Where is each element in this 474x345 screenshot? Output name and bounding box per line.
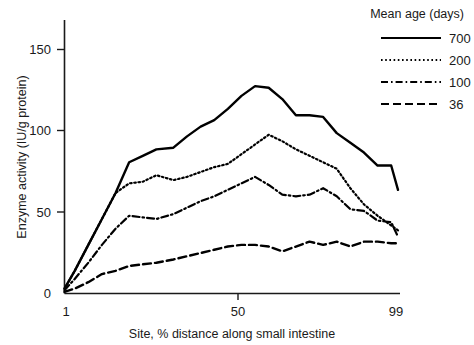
chart-figure: 150 100 50 0 1 50 99 Enzyme activity (IU… bbox=[0, 0, 474, 345]
x-tick-label-50: 50 bbox=[231, 304, 245, 319]
y-tick-label-150: 150 bbox=[29, 42, 51, 57]
legend-title: Mean age (days) bbox=[370, 7, 464, 21]
series-line-36 bbox=[65, 242, 399, 292]
y-tick-label-100: 100 bbox=[29, 123, 51, 138]
y-tick-label-50: 50 bbox=[37, 205, 51, 220]
series-line-200 bbox=[65, 135, 399, 289]
legend-item-36[interactable]: 36 bbox=[381, 97, 463, 112]
x-tick-label-99: 99 bbox=[389, 304, 403, 319]
legend-label-200: 200 bbox=[449, 53, 471, 68]
y-axis-title: Enzyme activity (IU/g protein) bbox=[15, 75, 29, 238]
y-tick-label-0: 0 bbox=[44, 286, 51, 301]
legend-label-36: 36 bbox=[449, 97, 463, 112]
axes-group bbox=[65, 20, 401, 294]
legend-item-700[interactable]: 700 bbox=[381, 31, 471, 46]
legend-item-200[interactable]: 200 bbox=[381, 53, 471, 68]
legend: Mean age (days) 700 200 100 36 bbox=[370, 7, 471, 112]
enzyme-activity-line-chart: 150 100 50 0 1 50 99 Enzyme activity (IU… bbox=[0, 0, 474, 345]
x-axis-title: Site, % distance along small intestine bbox=[129, 327, 335, 341]
x-tick-group: 1 50 99 bbox=[62, 294, 403, 320]
legend-label-100: 100 bbox=[449, 75, 471, 90]
legend-label-700: 700 bbox=[449, 31, 471, 46]
y-tick-group: 150 100 50 0 bbox=[29, 42, 64, 301]
series-layer bbox=[65, 86, 399, 292]
x-tick-label-1: 1 bbox=[62, 304, 69, 319]
legend-item-100[interactable]: 100 bbox=[381, 75, 471, 90]
